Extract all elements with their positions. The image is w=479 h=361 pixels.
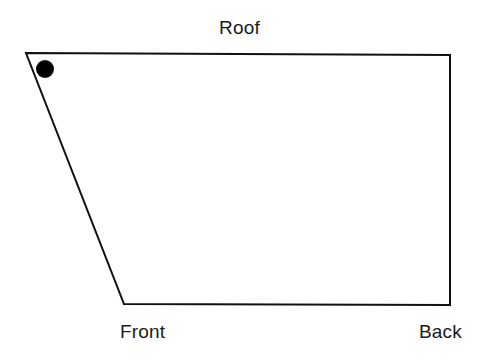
shape-diagram bbox=[0, 0, 479, 361]
label-back: Back bbox=[419, 322, 462, 341]
trapezoid-outline bbox=[26, 53, 450, 305]
label-front: Front bbox=[120, 322, 165, 341]
label-roof: Roof bbox=[0, 18, 479, 37]
diagram-canvas: Roof Front Back bbox=[0, 0, 479, 361]
reference-dot-icon bbox=[36, 60, 54, 78]
